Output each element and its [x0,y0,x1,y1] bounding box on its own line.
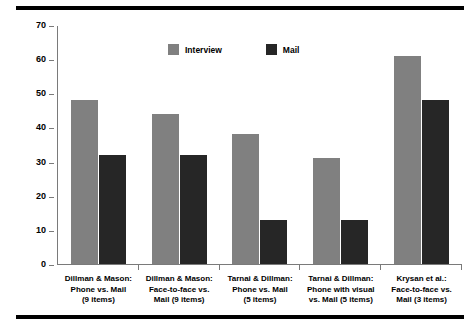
x-axis-tick [300,265,381,270]
y-axis-tick-mark [49,265,54,266]
x-axis-labels: Dillman & Mason:Phone vs. Mail(9 items)D… [58,274,462,306]
y-axis-tick-mark [49,26,54,27]
y-axis-tick-mark [49,94,54,95]
bar-interview [71,100,98,264]
bar-mail [260,220,287,264]
bar-interview [232,134,259,264]
x-axis-tick [220,265,301,270]
bottom-divider-rule [16,315,464,319]
y-axis-tick-label: 40 [36,122,46,132]
y-axis-tick-label: 50 [36,88,46,98]
x-axis-label: Dillman & Mason:Face-to-face vs.Mail (9 … [139,274,220,306]
bar-groups [58,26,462,264]
y-axis-tick-mark [49,163,54,164]
bar-interview [152,114,179,264]
y-axis-tick-label: 0 [41,259,46,269]
y-axis-tick-label: 30 [36,157,46,167]
x-axis-label: Krysan et al.:Face-to-face vs.Mail (3 it… [381,274,462,306]
x-axis-label: Tarnai & Dillman:Phone with visualvs. Ma… [300,274,381,306]
bar-mail [341,220,368,264]
x-axis-tick [381,265,462,270]
x-axis-tick [139,265,220,270]
bar-group [220,26,301,264]
x-axis-label: Dillman & Mason:Phone vs. Mail(9 items) [58,274,139,306]
bar-chart-figure: Average percent choosing "not a problem"… [0,0,474,327]
y-axis-tick-label: 10 [36,225,46,235]
bar-group [139,26,220,264]
x-axis-label: Tarnai & Dillman:Phone vs. Mail(5 items) [220,274,301,306]
y-axis-tick-mark [49,60,54,61]
y-axis-tick-label: 60 [36,54,46,64]
y-axis-tick-mark [49,231,54,232]
y-axis-tick-mark [49,128,54,129]
y-axis-tick-mark [49,197,54,198]
x-axis-tick [58,265,139,270]
bar-mail [180,155,207,264]
bar-interview [394,56,421,264]
bar-mail [99,155,126,264]
x-axis-ticks [58,265,462,270]
bar-group [381,26,462,264]
bar-group [58,26,139,264]
bar-group [300,26,381,264]
y-axis-tick-label: 20 [36,191,46,201]
y-axis-tick-label: 70 [36,20,46,30]
bar-interview [313,158,340,264]
top-divider-rule [16,6,464,10]
bar-mail [422,100,449,264]
